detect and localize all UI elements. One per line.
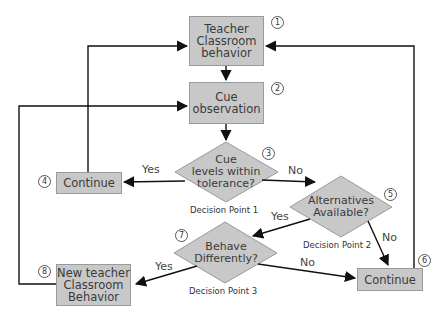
node-5-number: 5	[384, 188, 397, 201]
edge-label-n3-n4-yes: Yes	[142, 163, 160, 176]
edge-label-n3-n5-no: No	[288, 164, 303, 177]
node-2-line-2: observation	[192, 103, 260, 115]
node-2-number: 2	[271, 82, 284, 95]
node-behave-differently-text: Behave Differently?	[184, 239, 268, 267]
edge-n4-n1	[88, 46, 187, 172]
edge-n3-n4	[124, 181, 185, 182]
node-cue-observation: Cue observation	[189, 82, 264, 124]
node-1-line-3: behavior	[201, 47, 251, 59]
edge-label-n5-n6-no: No	[382, 231, 397, 244]
node-4-label: Continue	[63, 177, 115, 189]
node-3-line-3: tolerance?	[197, 178, 255, 190]
node-8-number: 8	[38, 265, 51, 278]
decision-point-3-caption: Decision Point 3	[189, 286, 257, 296]
node-3-number: 3	[262, 147, 275, 160]
node-7-line-2: Differently?	[194, 253, 258, 265]
node-6-label: Continue	[364, 274, 416, 286]
node-new-teacher-classroom-behavior: New teacher Classroom Behavior	[56, 264, 131, 306]
edge-label-n7-n8-yes: Yes	[155, 260, 173, 273]
edge-label-n5-n7-yes: Yes	[271, 210, 289, 223]
node-teacher-classroom-behavior: Teacher Classroom behavior	[189, 16, 264, 66]
node-continue-4: Continue	[56, 172, 122, 194]
node-7-number: 7	[175, 229, 188, 242]
decision-point-1-caption: Decision Point 1	[190, 205, 258, 215]
node-4-number: 4	[38, 175, 51, 188]
node-8-line-3: Behavior	[68, 291, 119, 303]
edge-label-n7-n6-no: No	[300, 256, 315, 269]
node-5-line-2: Available?	[313, 207, 369, 219]
node-alternatives-text: Alternatives Available?	[296, 193, 386, 221]
edge-n8-n2	[19, 106, 187, 284]
node-6-number: 6	[418, 254, 431, 267]
decision-point-2-caption: Decision Point 2	[303, 240, 371, 250]
node-cue-levels-text: Cue levels within tolerance?	[180, 150, 272, 194]
node-1-number: 1	[271, 16, 284, 29]
node-continue-6: Continue	[357, 268, 423, 291]
